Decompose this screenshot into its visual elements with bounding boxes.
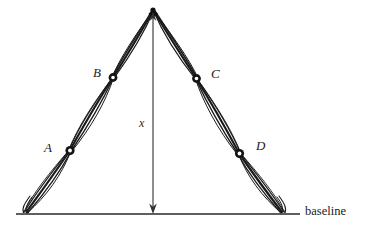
height-measure-label: x — [139, 117, 144, 129]
triangulation-figure: A B C D x baseline — [0, 0, 377, 232]
baseline-label: baseline — [305, 205, 346, 218]
node-knot-a — [65, 146, 74, 155]
vertex-label-c: C — [211, 67, 220, 80]
vertex-label-d: D — [256, 139, 266, 152]
node-knot-d — [235, 149, 244, 158]
left-limb-strand-bundle — [23, 11, 154, 213]
node-knot-b — [109, 73, 118, 82]
right-limb-strand-bundle — [154, 11, 286, 213]
figure-drawing — [0, 0, 377, 232]
vertex-label-a: A — [44, 141, 52, 154]
height-measure-arrow — [149, 12, 157, 215]
node-knot-c — [192, 74, 201, 83]
vertex-label-b: B — [93, 66, 101, 79]
